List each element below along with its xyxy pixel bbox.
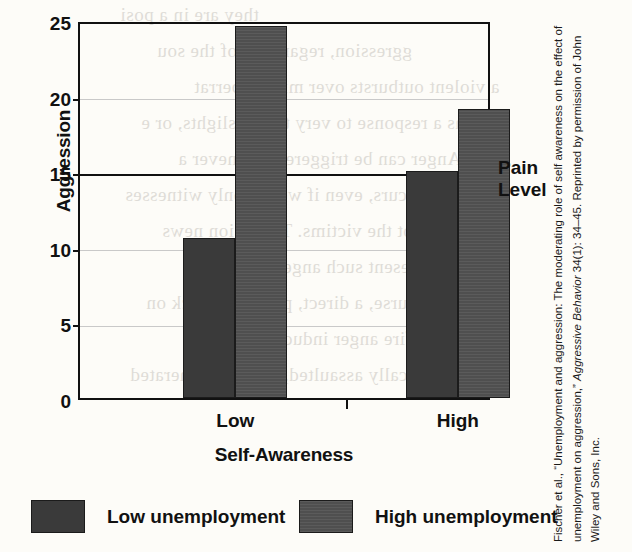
bar-high-low-unemployment xyxy=(406,171,458,398)
chart-legend: Low unemploymentHigh unemployment xyxy=(0,500,545,545)
x-tick-label-high: High xyxy=(437,410,479,432)
y-tick-mark-20 xyxy=(73,99,80,101)
bar-low-high-unemployment xyxy=(235,26,287,398)
y-tick-label-15: 15 xyxy=(31,164,71,186)
y-tick-mark-15 xyxy=(73,174,80,176)
credit-journal-name: Aggressive Behavior xyxy=(571,275,583,380)
y-tick-mark-5 xyxy=(73,325,80,327)
legend-label-high-unemployment: High unemployment xyxy=(375,506,558,528)
figure-grouped-bar-chart: Aggression 0510152025LowHigh Self-Awaren… xyxy=(0,0,545,552)
plot-area: 0510152025LowHigh xyxy=(78,22,490,400)
x-axis-title: Self-Awareness xyxy=(78,444,490,466)
legend-item-low-unemployment: Low unemployment xyxy=(31,500,285,533)
bar-high-high-unemployment xyxy=(458,109,510,398)
y-axis-title: Aggression xyxy=(53,91,75,231)
legend-swatch-low-unemployment xyxy=(31,500,85,533)
y-tick-label-10: 10 xyxy=(31,240,71,262)
y-tick-mark-10 xyxy=(73,250,80,252)
legend-label-low-unemployment: Low unemployment xyxy=(107,506,285,528)
legend-swatch-high-unemployment xyxy=(299,500,353,533)
legend-item-high-unemployment: High unemployment xyxy=(299,500,558,533)
x-axis-tick-mark xyxy=(346,398,348,409)
source-credit: Fischer et al., “Unemployment and aggres… xyxy=(545,0,632,552)
bar-low-low-unemployment xyxy=(183,238,235,398)
y-tick-label-20: 20 xyxy=(31,89,71,111)
y-tick-label-0: 0 xyxy=(31,391,71,413)
y-tick-label-25: 25 xyxy=(31,13,71,35)
y-tick-label-5: 5 xyxy=(31,315,71,337)
x-tick-label-low: Low xyxy=(216,410,254,432)
